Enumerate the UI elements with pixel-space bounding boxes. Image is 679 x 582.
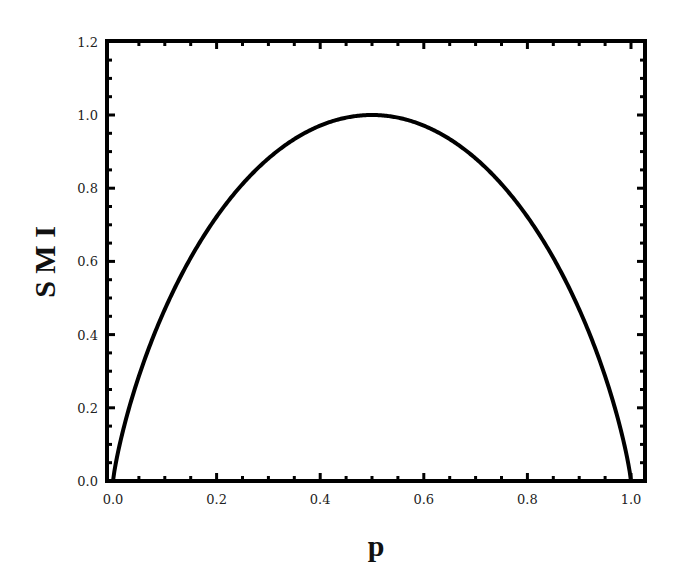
y-tick-label: 1.2 bbox=[77, 35, 98, 50]
y-tick-label: 0.2 bbox=[77, 401, 98, 416]
y-tick-label: 0.6 bbox=[77, 254, 98, 269]
x-tick-label: 1.0 bbox=[621, 492, 642, 507]
smi-curve bbox=[113, 115, 631, 481]
x-tick-label: 0.4 bbox=[310, 492, 331, 507]
x-tick-label: 0.8 bbox=[517, 492, 538, 507]
y-tick-label: 1.0 bbox=[77, 108, 98, 123]
x-axis-title: p bbox=[368, 529, 385, 562]
y-axis-title: S M I bbox=[28, 226, 61, 298]
chart: 0.00.20.40.60.81.0 0.00.20.40.60.81.01.2… bbox=[0, 0, 679, 582]
x-tick-label: 0.2 bbox=[206, 492, 227, 507]
x-tick-label: 0.0 bbox=[103, 492, 124, 507]
x-tick-label: 0.6 bbox=[413, 492, 434, 507]
y-tick-labels: 0.00.20.40.60.81.01.2 bbox=[77, 35, 98, 489]
y-tick-label: 0.0 bbox=[77, 474, 98, 489]
x-tick-labels: 0.00.20.40.60.81.0 bbox=[103, 492, 642, 507]
y-tick-label: 0.8 bbox=[77, 181, 98, 196]
y-tick-label: 0.4 bbox=[77, 328, 98, 343]
